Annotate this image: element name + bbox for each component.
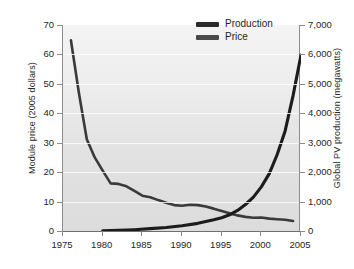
bottom-tick-label: 2005: [280, 239, 320, 250]
chart-legend: Production Price: [196, 19, 273, 42]
right-tick: [300, 84, 305, 85]
gridline: [63, 113, 299, 114]
bottom-tick-label: 1990: [161, 239, 201, 250]
bottom-tick-label: 1985: [121, 239, 161, 250]
gridline: [63, 202, 299, 203]
bottom-tick: [102, 231, 103, 236]
legend-item-price: Price: [196, 32, 273, 42]
left-tick: [57, 54, 62, 55]
bottom-tick: [221, 231, 222, 236]
right-tick-label: 1,000: [308, 196, 348, 207]
legend-label-price: Price: [225, 32, 248, 42]
right-tick: [300, 25, 305, 26]
bottom-tick: [62, 231, 63, 236]
plot-area: [62, 25, 300, 231]
left-tick-label: 0: [30, 225, 54, 236]
left-tick: [57, 113, 62, 114]
right-tick: [300, 172, 305, 173]
left-tick: [57, 143, 62, 144]
right-tick-label: 6,000: [308, 48, 348, 59]
right-tick-label: 2,000: [308, 166, 348, 177]
chart-figure: Module price (2005 dollars) Global PV pr…: [0, 0, 354, 269]
bottom-tick-label: 2000: [240, 239, 280, 250]
left-tick-label: 20: [30, 166, 54, 177]
gridline: [63, 84, 299, 85]
bottom-tick: [181, 231, 182, 236]
bottom-tick: [300, 231, 301, 236]
gridline: [63, 172, 299, 173]
left-tick-label: 70: [30, 19, 54, 30]
left-tick-label: 10: [30, 196, 54, 207]
gridline: [63, 54, 299, 55]
left-tick-label: 50: [30, 78, 54, 89]
bottom-tick-label: 1980: [82, 239, 122, 250]
bottom-tick: [260, 231, 261, 236]
right-tick: [300, 143, 305, 144]
price-swatch-icon: [196, 35, 219, 40]
right-tick-label: 4,000: [308, 107, 348, 118]
left-tick-label: 30: [30, 137, 54, 148]
bottom-tick: [141, 231, 142, 236]
left-tick: [57, 202, 62, 203]
gridline: [63, 143, 299, 144]
right-tick: [300, 54, 305, 55]
series-curves: [63, 25, 301, 231]
left-tick: [57, 25, 62, 26]
right-tick: [300, 202, 305, 203]
right-tick-label: 0: [308, 225, 348, 236]
left-tick-label: 60: [30, 48, 54, 59]
left-tick: [57, 172, 62, 173]
bottom-tick-label: 1995: [201, 239, 241, 250]
right-tick: [300, 113, 305, 114]
legend-item-production: Production: [196, 19, 273, 29]
production-swatch-icon: [196, 22, 219, 27]
legend-label-production: Production: [225, 19, 273, 29]
bottom-tick-label: 1975: [42, 239, 82, 250]
left-tick: [57, 84, 62, 85]
price-series-line: [71, 40, 293, 221]
left-tick-label: 40: [30, 107, 54, 118]
right-tick-label: 5,000: [308, 78, 348, 89]
right-tick-label: 3,000: [308, 137, 348, 148]
right-tick-label: 7,000: [308, 19, 348, 30]
